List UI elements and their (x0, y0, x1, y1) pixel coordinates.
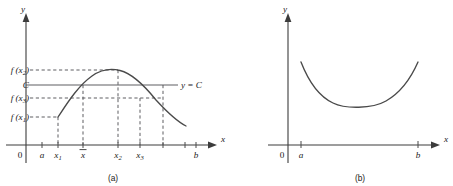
panel-b-y-axis (285, 13, 292, 163)
panel-a-x-axis-label: x (220, 134, 226, 144)
y-label-c: C (23, 80, 30, 90)
y-label-fx1: f (x1) (11, 112, 29, 123)
origin-label-a: 0 (18, 150, 23, 160)
caption-a: (a) (108, 173, 118, 183)
panel-a-vertical-guides (58, 70, 163, 145)
x-label-x1: x1 (53, 150, 61, 161)
panel-b: 0 a b y x (b) (268, 4, 449, 183)
panel-a: f (x2) C f (x3) f (x1) 0 a x1 x (6, 4, 226, 183)
panel-a-y-labels: f (x2) C f (x3) f (x1) (11, 65, 30, 123)
x-label-a: a (40, 150, 45, 160)
panel-b-x-labels: 0 a b (280, 150, 421, 160)
caption-b: (b) (355, 173, 365, 183)
line-label-y-equals-c: y = C (180, 80, 203, 90)
panel-a-x-labels: 0 a x1 x x2 x3 b (18, 150, 199, 161)
panel-a-y-axis-label: y (20, 4, 26, 14)
svg-text:x: x (80, 150, 86, 160)
x-label-x3: x3 (135, 150, 144, 161)
figure-container: f (x2) C f (x3) f (x1) 0 a x1 x (0, 0, 453, 186)
panel-b-curve (301, 62, 418, 107)
y-label-fx3: f (x3) (11, 93, 29, 104)
x-label-x2: x2 (113, 150, 122, 161)
x-label-b-b: b (416, 150, 421, 160)
x-label-b-a: a (299, 150, 304, 160)
y-label-fx2: f (x2) (11, 65, 29, 76)
figure-svg: f (x2) C f (x3) f (x1) 0 a x1 x (0, 0, 453, 186)
panel-b-x-axis (268, 142, 440, 149)
x-label-b: b (194, 150, 199, 160)
panel-b-y-axis-label: y (282, 4, 288, 14)
origin-label-b: 0 (280, 150, 285, 160)
panel-b-x-axis-label: x (443, 134, 449, 144)
x-label-xbar: x (80, 150, 87, 160)
